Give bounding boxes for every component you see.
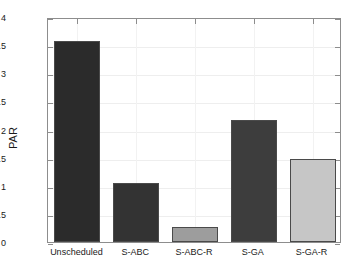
y-tick-mark	[335, 244, 340, 245]
y-tick-label: 2	[0, 126, 6, 136]
bar-chart-figure: PAR 00.511.522.533.54 UnscheduledS-ABCS-…	[0, 0, 357, 275]
x-tick-label: S-ABC-R	[165, 247, 224, 257]
x-tick-label: S-GA	[223, 247, 282, 257]
bars-container	[48, 19, 340, 242]
bar-s-abc	[113, 183, 159, 242]
x-tick-label: S-GA-R	[282, 247, 341, 257]
y-tick-label: 4	[0, 13, 6, 23]
y-tick-label: 1.5	[0, 154, 6, 164]
y-tick-label: 3	[0, 69, 6, 79]
bar-s-ga	[231, 120, 277, 242]
y-tick-label: 0.5	[0, 210, 6, 220]
plot-area	[47, 18, 341, 243]
x-tick-label: Unscheduled	[47, 247, 106, 257]
y-axis-title: PAR	[7, 127, 19, 149]
bar-s-abc-r	[172, 227, 218, 242]
y-tick-label: 1	[0, 182, 6, 192]
y-tick-label: 0	[0, 238, 6, 248]
y-tick-label: 2.5	[0, 97, 6, 107]
x-tick-label: S-ABC	[106, 247, 165, 257]
bar-s-ga-r	[290, 159, 336, 242]
bar-unscheduled	[54, 41, 100, 242]
y-tick-label: 3.5	[0, 41, 6, 51]
y-tick-mark	[48, 244, 53, 245]
